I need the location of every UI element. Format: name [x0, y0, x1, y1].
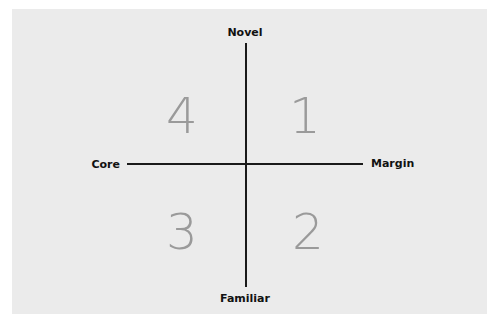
vertical-axis-line	[245, 43, 247, 287]
horizontal-axis-line	[127, 163, 363, 165]
quadrant-number-2: 2	[278, 207, 338, 257]
axis-label-margin: Margin	[371, 157, 414, 171]
quadrant-number-4: 4	[152, 91, 212, 141]
axis-label-novel: Novel	[195, 26, 295, 40]
quadrant-number-3: 3	[152, 207, 212, 257]
quadrant-number-1: 1	[275, 91, 335, 141]
axis-label-core: Core	[40, 158, 120, 172]
axis-label-familiar: Familiar	[195, 292, 295, 306]
